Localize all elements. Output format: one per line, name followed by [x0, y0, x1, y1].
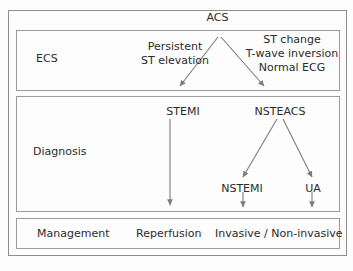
node-invasive: Invasive / Non-invasive: [215, 227, 342, 241]
node-persistent-st-elevation: Persistent ST elevation: [127, 40, 223, 68]
node-st-change-block: ST change T-wave inversion Normal ECG: [240, 33, 344, 74]
node-nsteacs: NSTEACS: [246, 105, 314, 119]
diagram-canvas: ACS ECS Persistent ST elevation ST chang…: [0, 0, 353, 271]
node-acs: ACS: [0, 11, 353, 25]
node-reperfusion: Reperfusion: [136, 227, 202, 241]
node-stemi: STEMI: [153, 105, 213, 119]
node-ua: UA: [288, 182, 338, 196]
row-label-ecs: ECS: [36, 52, 58, 66]
node-nstemi: NSTEMI: [212, 182, 272, 196]
row-label-management: Management: [37, 227, 109, 241]
row-label-diagnosis: Diagnosis: [33, 145, 86, 159]
